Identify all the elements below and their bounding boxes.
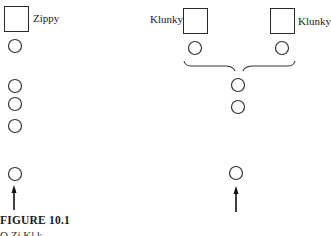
left-arrow-icon bbox=[12, 185, 17, 210]
right-top-circle-1 bbox=[189, 42, 202, 55]
figure-subcaption: O Zi Kl k bbox=[0, 229, 42, 236]
left-circle-5 bbox=[9, 168, 22, 181]
klunky-label-2: Klunky bbox=[298, 15, 331, 27]
right-merged-circle-3 bbox=[230, 167, 243, 180]
right-top-circle-2 bbox=[276, 42, 289, 55]
klunky-box-2 bbox=[270, 8, 295, 34]
klunky-box-1 bbox=[183, 8, 208, 34]
right-merged-circle-1 bbox=[232, 79, 245, 92]
klunky-label-1: Klunky bbox=[150, 13, 183, 25]
left-circle-2 bbox=[9, 80, 22, 93]
zippy-box bbox=[4, 6, 29, 32]
right-merged-circle-2 bbox=[232, 101, 245, 114]
right-arrow-icon bbox=[234, 186, 239, 212]
figure-caption: FIGURE 10.1 bbox=[0, 214, 70, 226]
left-circle-1 bbox=[9, 40, 22, 53]
merge-brace bbox=[184, 61, 295, 71]
figure-canvas bbox=[0, 0, 331, 236]
left-circle-3 bbox=[9, 98, 22, 111]
zippy-label: Zippy bbox=[33, 12, 59, 24]
left-circle-4 bbox=[9, 120, 22, 133]
